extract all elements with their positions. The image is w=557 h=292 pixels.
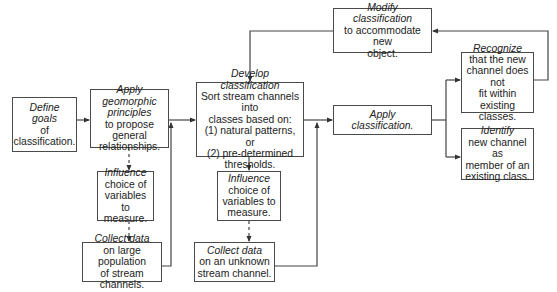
node-influence-2: Influence choice of variables to measure… (217, 171, 281, 221)
node-body: on large population of stream channels. (85, 245, 159, 291)
node-identify: Identify new channel as member of an exi… (461, 128, 534, 180)
node-title: Develop classification (221, 68, 280, 91)
node-title: Identify (481, 125, 515, 136)
node-body: on an unknown stream channel. (198, 256, 272, 279)
node-influence-1: Influence choice of variables to measure… (97, 171, 154, 221)
node-title: Apply classification. (352, 109, 414, 132)
node-title: Influence (104, 167, 146, 178)
node-title: Collect data (207, 245, 262, 256)
node-title: Recognize (473, 43, 522, 54)
node-collect-2: Collect data on an unknown stream channe… (194, 242, 275, 282)
node-develop-classification: Develop classification Sort stream chann… (196, 82, 304, 157)
node-body: to accommodate new object. (336, 25, 429, 59)
node-title: Define goals (29, 102, 59, 125)
node-title: Modify classification (353, 2, 412, 25)
node-modify-classification: Modify classification to accommodate new… (333, 8, 432, 53)
node-collect-1: Collect data on large population of stre… (82, 242, 162, 282)
node-body: new channel as member of an existing cla… (464, 137, 531, 183)
node-body: that the new channel does not fit within… (464, 54, 531, 122)
node-body: of classification. (14, 125, 76, 148)
node-body: choice of variables to measure. (222, 185, 275, 219)
node-title: Influence (228, 173, 270, 184)
node-body: choice of variables to measure. (100, 179, 151, 225)
node-define-goals: Define goals of classification. (12, 97, 77, 152)
node-title: Apply geomorphic principles (102, 84, 156, 118)
node-body: Sort stream channels into classes based … (199, 91, 301, 171)
node-apply-principles: Apply geomorphic principles to propose g… (90, 89, 169, 148)
node-apply-classification: Apply classification. (333, 105, 432, 135)
node-body: to propose general relationships. (93, 119, 166, 153)
node-title: Collect data (95, 233, 150, 244)
node-recognize: Recognize that the new channel does not … (461, 52, 534, 113)
